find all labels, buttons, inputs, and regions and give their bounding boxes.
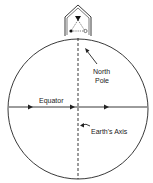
earths-axis-label: Earth's Axis [91, 128, 128, 135]
equator-arrow-1 [28, 105, 33, 110]
north-pole-label-line2: Pole [95, 77, 109, 84]
earth-diagram: North Pole Equator Earth's Axis [0, 0, 153, 183]
equator-arrow-3 [104, 105, 109, 110]
north-pole-pointer [87, 51, 97, 64]
equator-label: Equator [39, 97, 64, 105]
house-icon [65, 5, 91, 36]
north-pole-arrowhead [85, 48, 90, 53]
equator-arrow-2 [70, 105, 75, 110]
hollow-dot-icon [84, 29, 87, 32]
north-pole-label-line1: North [93, 68, 110, 75]
axis-arrowhead [80, 123, 84, 128]
filled-dot-icon [69, 29, 72, 32]
